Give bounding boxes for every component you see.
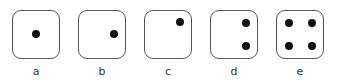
pip-dot-icon <box>285 42 293 50</box>
die-label: a <box>12 65 60 78</box>
pip-dot-icon <box>176 18 184 26</box>
die-label: b <box>78 65 126 78</box>
pip-dot-icon <box>285 19 293 27</box>
pip-dot-icon <box>110 30 118 38</box>
pip-dot-icon <box>308 19 316 27</box>
die-c <box>144 10 192 59</box>
die-d <box>210 10 258 59</box>
die-a <box>12 10 60 59</box>
die-b <box>78 10 126 59</box>
pip-dot-icon <box>32 30 40 38</box>
pip-dot-icon <box>242 42 250 50</box>
die-label: d <box>210 65 258 78</box>
pip-dot-icon <box>308 42 316 50</box>
die-e <box>276 10 324 59</box>
pip-dot-icon <box>242 19 250 27</box>
die-label: e <box>276 65 324 78</box>
die-label: c <box>144 65 192 78</box>
